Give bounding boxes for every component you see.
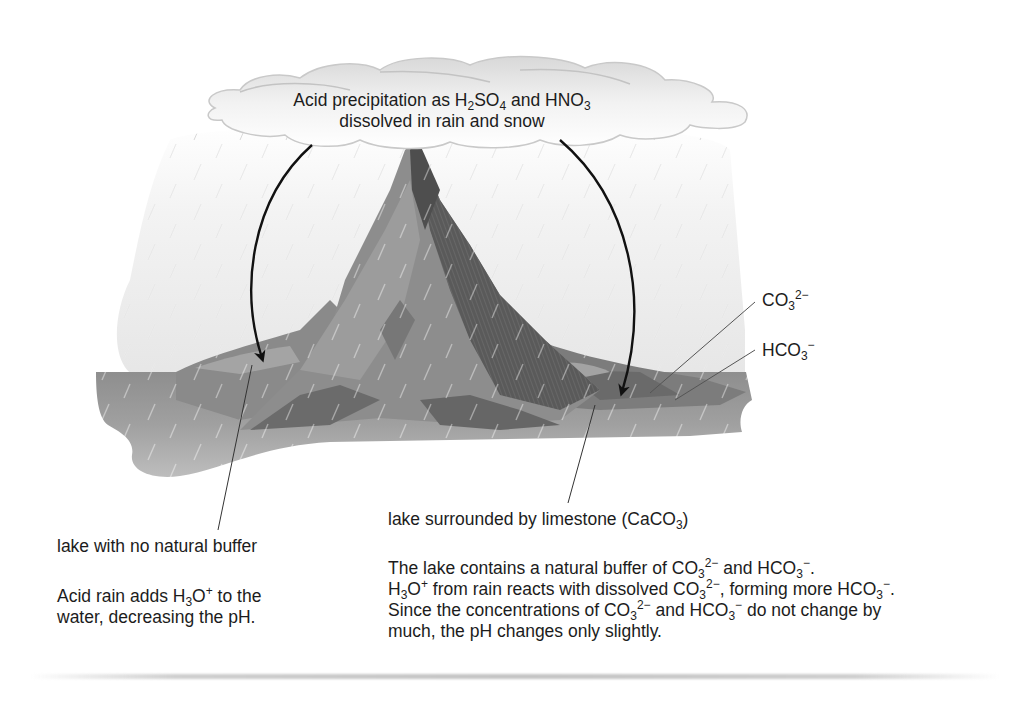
right-lake-line4: much, the pH changes only slightly. — [388, 621, 895, 642]
right-lake-title: lake surrounded by limestone (CaCO3) — [388, 509, 688, 530]
right-lake-line2: H3O+ from rain reacts with dissolved CO3… — [388, 579, 895, 600]
right-lake-description: The lake contains a natural buffer of CO… — [388, 558, 895, 642]
left-lake-description: Acid rain adds H3O+ to the water, decrea… — [57, 586, 261, 628]
left-lake-title: lake with no natural buffer — [57, 536, 257, 557]
bottom-divider — [30, 674, 1000, 679]
right-lake-line1: The lake contains a natural buffer of CO… — [388, 558, 895, 579]
bicarbonate-label: HCO3− — [762, 340, 815, 361]
carbonate-label: CO32− — [762, 290, 809, 311]
right-lake-line3: Since the concentrations of CO32− and HC… — [388, 600, 895, 621]
cloud-label-line2: dissolved in rain and snow — [262, 111, 622, 132]
cloud-label: Acid precipitation as H2SO4 and HNO3 dis… — [262, 90, 622, 132]
cloud-label-line1: Acid precipitation as H2SO4 and HNO3 — [262, 90, 622, 111]
